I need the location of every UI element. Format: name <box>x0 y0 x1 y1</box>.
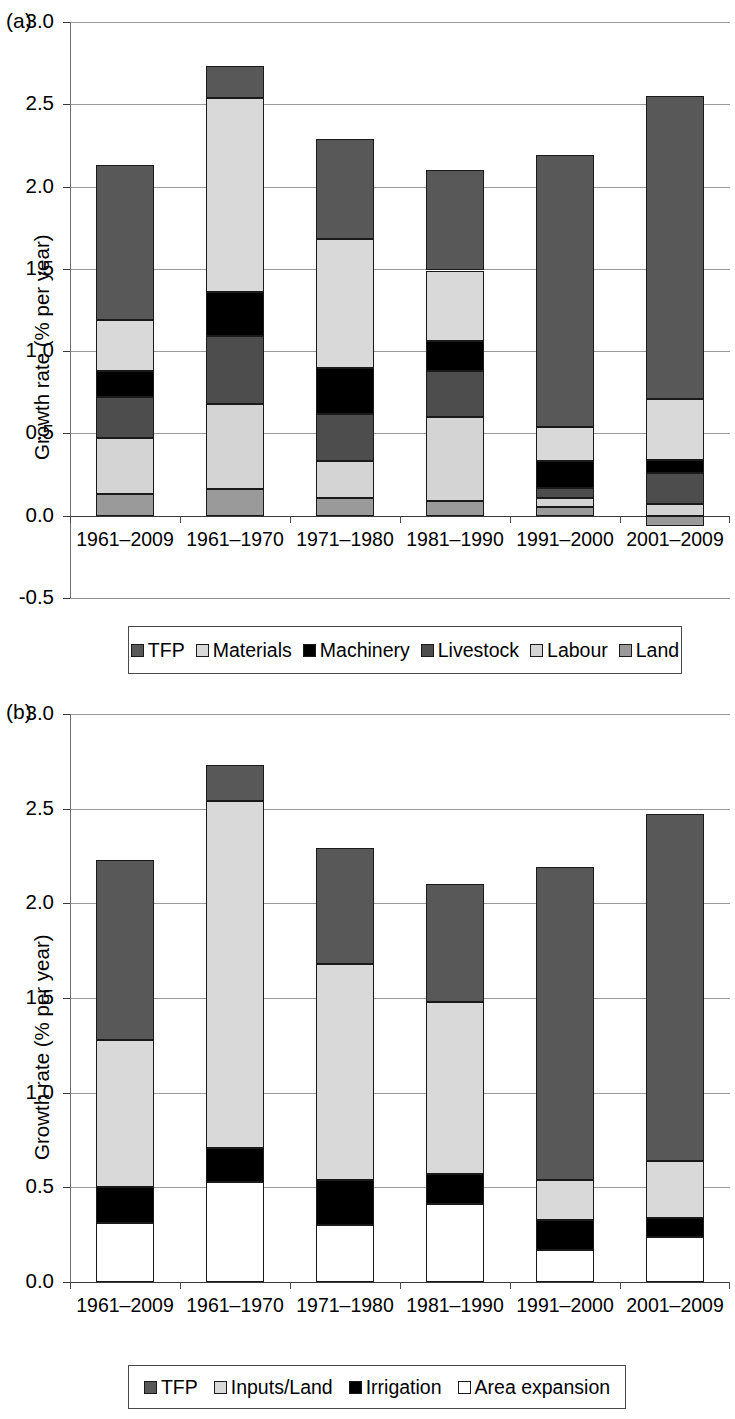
y-axis-tick-label: 2.0 <box>0 174 54 198</box>
y-axis-tick <box>63 1282 70 1283</box>
x-axis-tick-label: 1971–1980 <box>290 1294 400 1317</box>
bar-segment-labour <box>426 417 484 501</box>
bar-1961–1970 <box>206 22 264 598</box>
legend-item-materials: Materials <box>196 639 292 662</box>
bar-segment-land <box>426 501 484 516</box>
bar-segment-area-expansion <box>426 1204 484 1282</box>
legend-swatch-icon <box>196 644 209 657</box>
y-axis-tick <box>63 104 70 105</box>
bar-segment-inputs-land <box>316 964 374 1180</box>
legend-item-tfp: TFP <box>144 1376 198 1399</box>
gridline <box>70 104 730 105</box>
plot-area-b: 0.00.51.01.52.02.53.01961–20091961–19701… <box>70 714 730 1282</box>
bar-segment-inputs-land <box>96 1040 154 1188</box>
x-axis-tick-label: 1961–1970 <box>180 1294 290 1317</box>
y-axis-line <box>70 714 71 1282</box>
bar-segment-area-expansion <box>646 1237 704 1282</box>
x-axis-tick <box>290 516 291 523</box>
bar-segment-tfp <box>316 139 374 239</box>
y-axis-tick-label: 0.5 <box>0 1174 54 1198</box>
y-axis-tick <box>63 516 70 517</box>
bar-1961–2009 <box>96 714 154 1282</box>
x-axis-tick <box>400 516 401 523</box>
legend-label: Inputs/Land <box>231 1376 333 1399</box>
bar-segment-land <box>646 516 704 526</box>
y-axis-tick <box>63 809 70 810</box>
x-axis-tick <box>510 1282 511 1289</box>
bar-segment-tfp <box>646 814 704 1160</box>
y-axis-tick-label: 1.5 <box>0 256 54 280</box>
bar-2001–2009 <box>646 22 704 598</box>
legend-label: TFP <box>148 639 185 662</box>
gridline <box>70 714 730 715</box>
x-axis-tick-label: 2001–2009 <box>620 528 730 551</box>
legend-label: Land <box>636 639 679 662</box>
legend-item-area-expansion: Area expansion <box>458 1376 611 1399</box>
bar-segment-irrigation <box>96 1187 154 1223</box>
y-axis-tick-label: -0.5 <box>0 585 54 609</box>
x-axis-tick-label: 1981–1990 <box>400 1294 510 1317</box>
x-axis-tick-label: 1961–1970 <box>180 528 290 551</box>
bar-segment-labour <box>536 498 594 508</box>
y-axis-tick <box>63 269 70 270</box>
bar-segment-area-expansion <box>536 1250 594 1282</box>
legend-item-labour: Labour <box>530 639 608 662</box>
y-axis-tick-label: 0.0 <box>0 503 54 527</box>
bar-segment-machinery <box>646 460 704 473</box>
legend-a: TFPMaterialsMachineryLivestockLabourLand <box>128 626 682 674</box>
bar-segment-machinery <box>206 292 264 336</box>
bar-segment-materials <box>426 271 484 342</box>
bar-segment-livestock <box>206 336 264 403</box>
y-axis-tick <box>63 187 70 188</box>
y-axis-tick-label: 3.0 <box>0 701 54 725</box>
x-axis-tick <box>290 1282 291 1289</box>
y-axis-tick-label: 2.5 <box>0 796 54 820</box>
gridline <box>70 22 730 23</box>
y-axis-tick <box>63 1093 70 1094</box>
y-axis-tick <box>63 1187 70 1188</box>
bar-segment-livestock <box>96 397 154 438</box>
bar-segment-materials <box>536 427 594 462</box>
y-axis-tick <box>63 903 70 904</box>
bar-segment-irrigation <box>206 1148 264 1182</box>
x-axis-tick <box>620 1282 621 1289</box>
gridline <box>70 903 730 904</box>
x-axis-tick <box>620 516 621 523</box>
bar-segment-area-expansion <box>206 1182 264 1282</box>
y-axis-tick-label: 1.0 <box>0 1080 54 1104</box>
bar-segment-tfp <box>96 860 154 1040</box>
gridline <box>70 351 730 352</box>
bar-segment-livestock <box>426 371 484 417</box>
y-axis-tick <box>63 998 70 999</box>
y-axis-tick <box>63 22 70 23</box>
bar-segment-labour <box>646 504 704 516</box>
bar-segment-tfp <box>96 165 154 320</box>
y-axis-tick-label: 0.0 <box>0 1269 54 1293</box>
bar-segment-labour <box>206 404 264 490</box>
bar-segment-tfp <box>426 170 484 270</box>
gridline <box>70 809 730 810</box>
bar-segment-livestock <box>316 414 374 462</box>
legend-label: Livestock <box>438 639 519 662</box>
x-axis-tick <box>510 516 511 523</box>
gridline <box>70 433 730 434</box>
bar-segment-irrigation <box>426 1174 484 1204</box>
bar-segment-livestock <box>536 488 594 498</box>
y-axis-line <box>70 22 71 598</box>
legend-swatch-icon <box>530 644 543 657</box>
bar-segment-tfp <box>426 884 484 1001</box>
bar-segment-materials <box>96 320 154 371</box>
x-axis-tick-label: 1991–2000 <box>510 528 620 551</box>
legend-label: Irrigation <box>366 1376 442 1399</box>
bar-segment-tfp <box>206 66 264 97</box>
bar-1971–1980 <box>316 22 374 598</box>
legend-item-tfp: TFP <box>131 639 185 662</box>
legend-swatch-icon <box>144 1381 157 1394</box>
legend-item-inputs-land: Inputs/Land <box>214 1376 333 1399</box>
legend-swatch-icon <box>303 644 316 657</box>
y-axis-tick <box>63 351 70 352</box>
legend-label: Area expansion <box>475 1376 611 1399</box>
legend-item-livestock: Livestock <box>421 639 519 662</box>
x-axis-tick <box>70 516 71 523</box>
bar-segment-inputs-land <box>426 1002 484 1174</box>
